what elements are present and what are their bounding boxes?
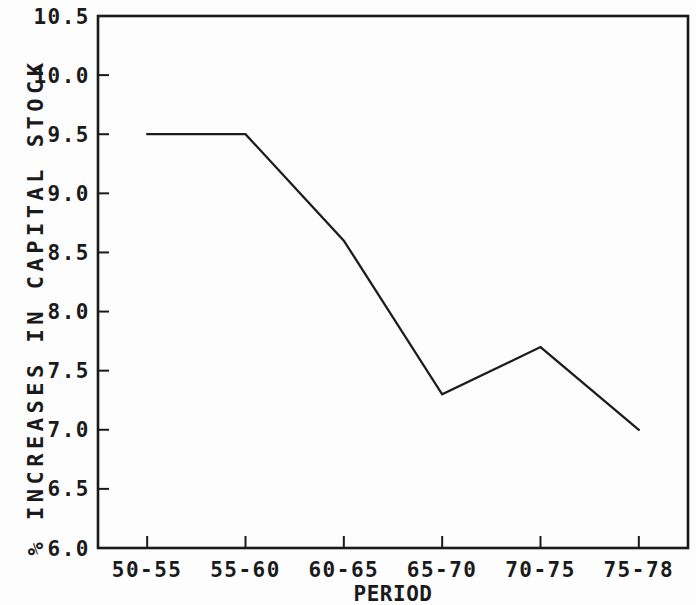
chart-figure: 6.06.57.07.58.08.59.09.510.010.550-5555-… [0,0,696,605]
x-axis-label: PERIOD [354,582,433,605]
y-axis-label: % INCREASES IN CAPITAL STOCK [23,59,48,556]
y-tick-label: 8.5 [48,241,90,265]
x-tick-label: 50-55 [112,558,183,582]
y-tick-label: 8.0 [48,300,90,324]
y-tick-label: 7.5 [48,359,90,383]
x-tick-label: 55-60 [210,558,281,582]
x-tick-label: 75-78 [603,558,674,582]
x-tick-label: 60-65 [308,558,379,582]
y-tick-label: 6.5 [48,477,90,501]
y-tick-label: 9.0 [48,182,90,206]
plot-frame [98,16,688,548]
data-line [147,134,639,430]
y-tick-label: 7.0 [48,418,90,442]
x-tick-label: 70-75 [505,558,576,582]
line-chart: 6.06.57.07.58.08.59.09.510.010.550-5555-… [0,0,696,605]
x-tick-label: 65-70 [407,558,478,582]
y-tick-label: 6.0 [48,537,90,561]
y-tick-label: 9.5 [48,123,90,147]
y-tick-label: 10.5 [33,5,90,29]
